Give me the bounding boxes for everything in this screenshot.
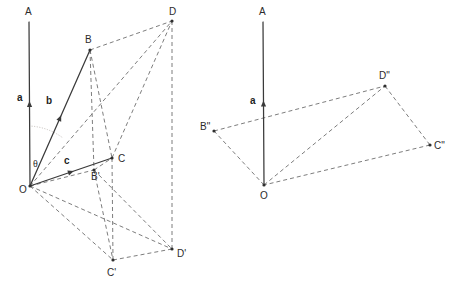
edge-Bpp-Dpp [214, 86, 385, 131]
vector-label-b: b [46, 95, 52, 106]
edge-C-Cp [112, 158, 113, 260]
edge-O-Bp [30, 170, 94, 186]
vertex-dot-O [262, 183, 265, 186]
point-label-D: D [169, 6, 176, 17]
edge-B-Bp [90, 50, 94, 170]
vertex-dot-D [170, 19, 173, 22]
vertex-dot-Dp [170, 247, 173, 250]
edge-O-Dp [30, 186, 172, 249]
point-label-Cp: C' [107, 267, 116, 278]
vertex-dot-Dpp [383, 84, 386, 87]
point-label-B: B [85, 34, 92, 45]
theta-angle-label: θ [33, 158, 38, 169]
vertex-dot-Bpp [212, 129, 215, 132]
arrowhead-c [67, 171, 74, 176]
point-label-A: A [25, 6, 32, 17]
vertex-dot-O [28, 184, 31, 187]
diagram-canvas: OABCDB'C'D' abc θ OAB"C"D" a [0, 0, 451, 284]
vertex-dot-Cpp [428, 143, 431, 146]
edge-Dpp-Cpp [385, 86, 430, 145]
right-solid-vectors [261, 22, 266, 185]
vertex-dot-B [88, 48, 91, 51]
edge-Cp-Dp [113, 249, 172, 260]
point-label-O: O [260, 190, 268, 201]
point-label-Bp: B' [91, 171, 100, 182]
point-label-Cpp: C" [434, 140, 445, 151]
edge-Bp-C [94, 158, 112, 170]
vertex-dot-Cp [111, 258, 114, 261]
edge-O-Bpp [214, 131, 264, 185]
theta-arc-group [29, 126, 63, 138]
point-label-O: O [19, 184, 27, 195]
left-dashed-edges [30, 21, 172, 260]
geometry-diagram: OABCDB'C'D' abc θ OAB"C"D" a [0, 0, 451, 284]
edge-O-Cp [30, 186, 113, 260]
edge-C-D [112, 21, 172, 158]
arrowhead-a [261, 101, 266, 107]
right-point-labels: OAB"C"D" [200, 6, 445, 201]
point-label-C: C [118, 153, 125, 164]
vertex-dot-C [110, 156, 113, 159]
right-vertex-dots [212, 84, 431, 186]
point-label-A: A [259, 6, 266, 17]
vector-label-a: a [17, 92, 23, 103]
right-dashed-edges [214, 86, 430, 185]
theta-arc [29, 126, 63, 138]
arrowhead-a [27, 101, 32, 107]
point-label-Dpp: D" [379, 70, 390, 81]
right-vector-labels: a [250, 95, 256, 106]
vector-label-c: c [64, 155, 70, 166]
point-label-Dp: D' [177, 248, 186, 259]
point-label-Bpp: B" [200, 121, 211, 132]
edge-Bp-Cp [94, 170, 113, 260]
edge-Bp-Dp [94, 170, 172, 249]
vector-label-a: a [250, 95, 256, 106]
